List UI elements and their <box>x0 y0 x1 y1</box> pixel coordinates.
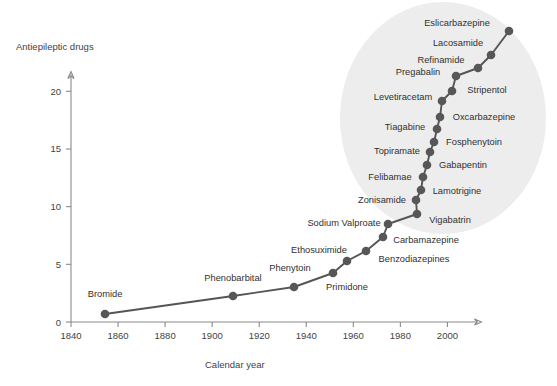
data-point-label: Vigabatrin <box>429 215 471 225</box>
data-point-dot <box>101 310 110 319</box>
x-tick-label: 1900 <box>202 330 223 341</box>
data-point-label: Carbamazepine <box>393 235 459 245</box>
data-point-label: Phenobarbital <box>204 273 261 283</box>
data-point-dot <box>436 113 445 122</box>
data-point-label: Phenytoin <box>269 263 310 273</box>
x-axis-title: Calendar year <box>205 359 265 370</box>
data-point-dot <box>438 97 447 106</box>
data-point-dot <box>505 27 514 36</box>
x-axis-ticks: 184018601880190019201940196019802000 <box>60 322 458 341</box>
data-point-dot <box>229 292 238 301</box>
data-point-label: Stripentol <box>467 85 506 95</box>
data-point-dot <box>423 161 432 170</box>
data-point-dot <box>448 87 457 96</box>
data-point-label: Fosphenytoin <box>446 137 502 147</box>
data-point-dot <box>413 210 422 219</box>
data-point-label: Topiramate <box>374 146 420 156</box>
data-point-label: Levetiracetam <box>374 92 433 102</box>
data-point-dot <box>290 283 299 292</box>
data-point-dot <box>430 138 439 147</box>
x-tick-label: 1840 <box>60 330 81 341</box>
data-point-label: Gabapentin <box>439 160 487 170</box>
y-tick-label: 15 <box>50 143 61 154</box>
data-point-label: Lacosamide <box>433 38 483 48</box>
data-point-dot <box>452 72 461 81</box>
data-point-dot <box>329 269 338 278</box>
data-point-dot <box>426 148 435 157</box>
data-point-label: Lamotrigine <box>433 186 482 196</box>
y-tick-label: 20 <box>50 86 61 97</box>
x-tick-label: 1920 <box>249 330 270 341</box>
data-point-dot <box>362 247 371 256</box>
y-tick-label: 0 <box>56 317 61 328</box>
x-tick-label: 1860 <box>107 330 128 341</box>
data-point-label: Felibamae <box>368 172 411 182</box>
data-point-dot <box>417 186 426 195</box>
data-point-label: Tiagabine <box>385 122 426 132</box>
data-point-label: Sodium Valproate <box>307 218 380 228</box>
y-tick-label: 10 <box>50 201 61 212</box>
x-tick-label: 1940 <box>296 330 317 341</box>
x-tick-label: 1880 <box>155 330 176 341</box>
data-point-label: Benzodiazepines <box>379 254 450 264</box>
data-point-label: Primidone <box>326 282 368 292</box>
data-point-dot <box>379 233 388 242</box>
data-point-label: Zonisamide <box>358 195 406 205</box>
data-point-dot <box>474 64 483 73</box>
figure-caption-strip <box>0 377 557 386</box>
data-point-label: Ethosuximide <box>291 245 347 255</box>
data-point-dot <box>343 257 352 266</box>
data-point-label: Pregabalin <box>396 67 440 77</box>
data-point-dot <box>487 51 496 60</box>
data-point-dot <box>412 196 421 205</box>
data-point-dot <box>419 173 428 182</box>
data-point-dot <box>433 125 442 134</box>
data-point-label: Refinamide <box>417 55 464 65</box>
data-point-label: Bromide <box>88 289 123 299</box>
x-tick-label: 1960 <box>343 330 364 341</box>
chart-container: Antiepileptic drugs 05101520 18401860188… <box>0 0 557 386</box>
y-axis-title: Antiepileptic drugs <box>16 41 94 52</box>
x-tick-label: 2000 <box>437 330 458 341</box>
data-point-label: Oxcarbazepine <box>453 112 516 122</box>
data-point-label: Eslicarbazepine <box>424 18 490 28</box>
data-point-dot <box>384 220 393 229</box>
x-tick-label: 1980 <box>390 330 411 341</box>
y-tick-label: 5 <box>56 259 61 270</box>
antiepileptic-drugs-timeline-chart: Antiepileptic drugs 05101520 18401860188… <box>0 0 557 386</box>
y-axis-ticks: 05101520 <box>50 86 71 328</box>
